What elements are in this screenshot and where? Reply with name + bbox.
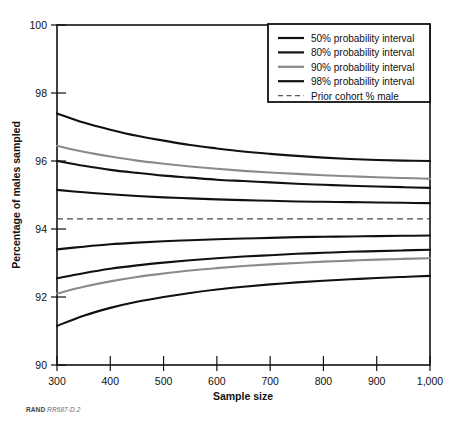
y-tick-label: 96 [35, 155, 47, 167]
y-tick-label: 98 [35, 87, 47, 99]
x-tick-label: 600 [208, 375, 226, 387]
x-tick-label: 900 [368, 375, 386, 387]
x-axis-title: Sample size [213, 390, 273, 402]
x-tick-label: 300 [48, 375, 66, 387]
x-tick-label: 800 [315, 375, 333, 387]
y-tick-label: 92 [35, 291, 47, 303]
y-tick-label: 100 [29, 19, 47, 31]
legend-label: 50% probability interval [311, 33, 414, 44]
legend-label: 98% probability interval [311, 76, 414, 87]
y-tick-label: 90 [35, 359, 47, 371]
x-tick-label: 700 [261, 375, 279, 387]
y-tick-label: 94 [35, 223, 47, 235]
figure-container: 9092949698100 3004005006007008009001,000… [0, 0, 453, 431]
chart-canvas: 9092949698100 3004005006007008009001,000… [0, 0, 453, 431]
x-tick-label: 400 [102, 375, 120, 387]
legend-label: 90% probability interval [311, 62, 414, 73]
y-axis-title: Percentage of males sampled [10, 121, 22, 269]
source-note: RAND RR687-D.2 [26, 406, 81, 413]
x-tick-label: 1,000 [417, 375, 443, 387]
legend-label: 80% probability interval [311, 47, 414, 58]
source-note-prefix: RAND [26, 406, 45, 413]
source-note-id: RR687-D.2 [47, 406, 80, 413]
legend-label: Prior cohort % male [311, 91, 399, 102]
x-tick-label: 500 [155, 375, 173, 387]
chart-legend: 50% probability interval80% probability … [268, 24, 430, 102]
